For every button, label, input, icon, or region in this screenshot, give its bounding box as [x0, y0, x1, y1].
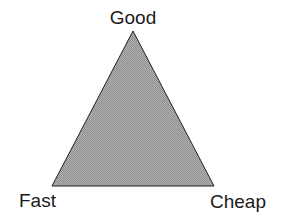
label-fast: Fast	[19, 190, 57, 211]
label-cheap: Cheap	[210, 191, 266, 212]
label-good: Good	[110, 7, 156, 28]
project-triangle-diagram: Good Fast Cheap	[0, 0, 284, 220]
triangle-shape	[52, 31, 214, 186]
triangle-svg: Good Fast Cheap	[0, 0, 284, 220]
